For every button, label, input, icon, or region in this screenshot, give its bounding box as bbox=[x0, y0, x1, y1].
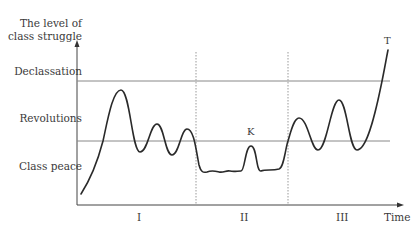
revolutions-label: Revolutions bbox=[19, 112, 82, 124]
period-3-label: III bbox=[336, 211, 348, 223]
x-axis-arrow-icon bbox=[397, 203, 404, 208]
y-axis-title-line-1: The level of bbox=[20, 17, 82, 29]
period-2-label: II bbox=[240, 211, 248, 223]
time-axis-label: Time bbox=[384, 211, 411, 223]
period-1-label: I bbox=[137, 211, 141, 223]
annotation-t: T bbox=[384, 35, 391, 47]
class-peace-label: Class peace bbox=[19, 160, 82, 172]
declassation-label: Declassation bbox=[14, 65, 82, 77]
annotation-k: K bbox=[247, 126, 254, 138]
class-struggle-curve bbox=[81, 50, 388, 194]
y-axis-title-line-2: class struggle bbox=[8, 30, 82, 42]
